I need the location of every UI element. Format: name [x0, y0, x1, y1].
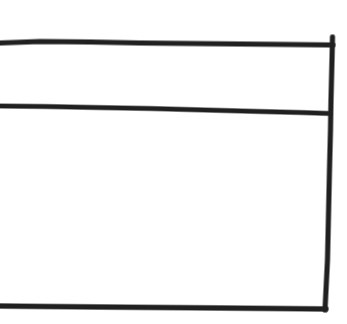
- bottom-border-line-texture: [0, 306, 326, 309]
- header-row-region: [0, 46, 330, 106]
- body-row-region: [0, 114, 326, 305]
- sketch-canvas: [0, 0, 347, 324]
- top-border-line-texture: [0, 42, 333, 46]
